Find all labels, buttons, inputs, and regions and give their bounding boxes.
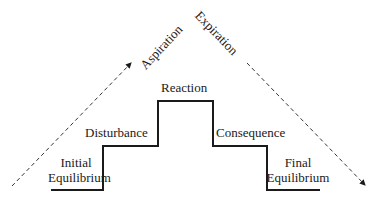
stage-disturbance: Disturbance [85,125,148,140]
stage-reaction: Reaction [161,80,207,95]
stage-initial-line2: Equilibrium [48,170,104,185]
stage-consequence: Consequence [216,125,285,140]
stage-initial-equilibrium: Initial Equilibrium [48,155,104,185]
stage-final-equilibrium: Final Equilibrium [265,155,331,185]
stage-final-line2: Equilibrium [265,170,331,185]
stage-final-line1: Final [265,155,331,170]
stage-initial-line1: Initial [48,155,104,170]
staircase-diagram: Initial Equilibrium Disturbance Reaction… [0,0,376,201]
